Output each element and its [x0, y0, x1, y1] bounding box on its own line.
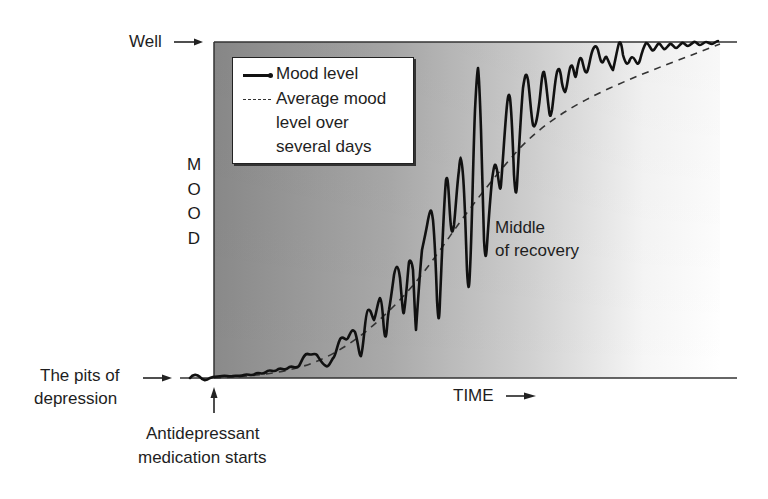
time-label: TIME: [453, 386, 494, 406]
solid-line-swatch-icon: [243, 74, 271, 77]
chart-legend: Mood level Average mood level over sever…: [232, 57, 414, 164]
middle-recovery-line1: Middle: [495, 218, 545, 238]
well-arrow-icon: [194, 39, 203, 46]
pits-label-line2: depression: [34, 389, 117, 409]
pits-label-line1: The pits of: [40, 366, 119, 386]
mood-axis-label: M O O D: [184, 153, 204, 251]
mood-letter: O: [184, 202, 204, 227]
dashed-line-swatch-icon: [243, 99, 271, 100]
mood-letter: O: [184, 178, 204, 203]
legend-average-line3: several days: [276, 137, 371, 157]
pits-arrow-icon: [162, 375, 172, 382]
legend-average-line2: level over: [276, 113, 349, 133]
legend-mood-level: Mood level: [276, 64, 358, 84]
mood-letter: D: [184, 227, 204, 252]
medication-label-line2: medication starts: [138, 448, 267, 468]
time-arrow-icon: [524, 393, 536, 400]
mood-letter: M: [184, 153, 204, 178]
legend-average-line1: Average mood: [276, 89, 386, 109]
medication-label-line1: Antidepressant: [146, 424, 259, 444]
medication-arrow-icon: [211, 387, 218, 398]
middle-recovery-line2: of recovery: [495, 241, 579, 261]
well-label: Well: [129, 32, 162, 52]
